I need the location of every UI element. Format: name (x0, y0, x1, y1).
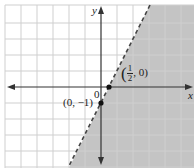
point-half-zero (106, 84, 111, 89)
coordinate-plane (0, 0, 194, 168)
point-label-zero-neg-one: (0, −1) (63, 97, 93, 108)
point-label-half-zero: (12, 0) (121, 64, 148, 83)
x-axis-label: x (188, 90, 193, 101)
point-zero-neg-one (98, 100, 103, 105)
x-axis-left-arrow-icon (7, 84, 15, 90)
y-axis-label: y (92, 5, 97, 16)
y-axis-up-arrow-icon (98, 6, 104, 14)
origin-label: 0 (94, 89, 100, 100)
